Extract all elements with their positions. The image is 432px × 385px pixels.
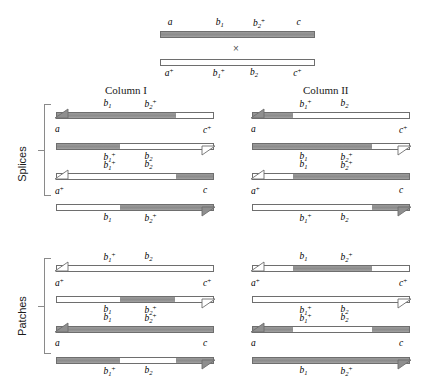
allele-segment [372, 327, 411, 332]
allele-segment [253, 358, 410, 363]
patches-col2-p2-top-chromosome [252, 326, 410, 333]
patches-col2-p2-left-end-label: a [251, 339, 256, 349]
patches-col2-p2-bottom-locus-label-0: b1 [299, 366, 307, 377]
figure-canvas: × ab1b2+ca+b1+b2c+ Column I Column II Sp… [0, 0, 432, 385]
patches-col2-p2-pair: b1+b2b1b2+ac [0, 0, 432, 385]
patches-col2-p2-top-locus-label-0: b1+ [299, 313, 311, 325]
patches-col2-p2-bottom-chromosome [252, 357, 410, 364]
patches-col2-p2-bottom-arrowhead-icon [398, 358, 412, 370]
patches-col2-p2-top-arrowhead-icon [251, 322, 265, 334]
patches-col2-p2-top-locus-label-1: b2 [340, 313, 348, 324]
patches-col2-p2-right-end-label: c [399, 339, 403, 349]
patches-col2-p2-bottom-locus-label-1: b2+ [340, 366, 352, 378]
